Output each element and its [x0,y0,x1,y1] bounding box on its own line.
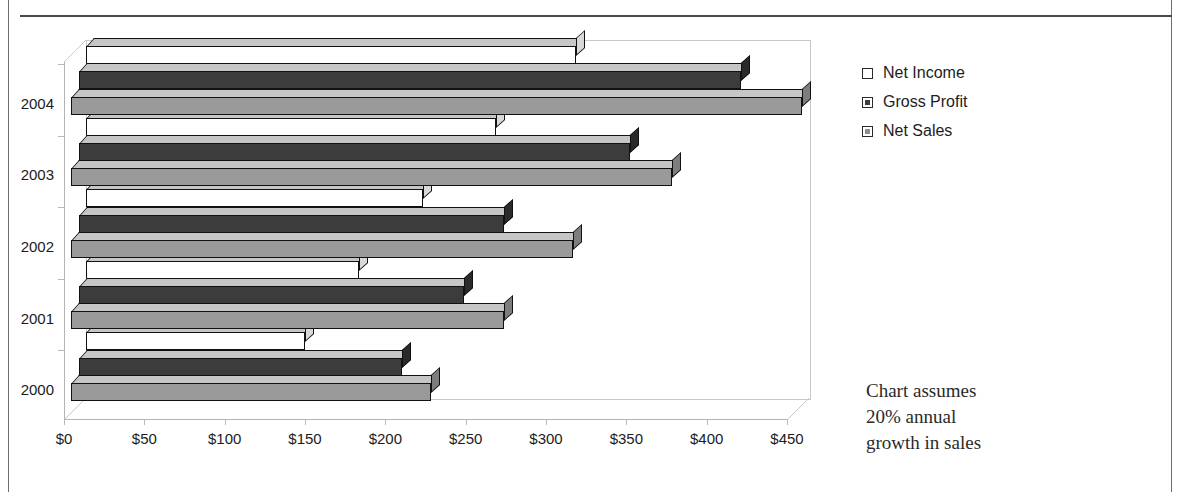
x-axis-line [64,419,787,420]
y-tick-label: 2003 [0,166,54,183]
bar-front-face [79,143,630,161]
legend-item-gross-profit[interactable]: Gross Profit [862,93,967,111]
x-tick-label: $100 [208,430,241,447]
bar-net-income-2004[interactable] [86,46,576,64]
x-tick [385,419,386,425]
bar-net-income-2001[interactable] [86,261,359,279]
legend-swatch-gross-profit [862,97,873,108]
x-tick-label: $0 [56,430,73,447]
x-tick-label: $400 [690,430,723,447]
legend-item-net-sales[interactable]: Net Sales [862,122,967,140]
y-tick [58,136,64,137]
legend-label-net-sales: Net Sales [883,122,952,140]
legend-swatch-net-income [862,68,873,79]
y-tick-label: 2001 [0,310,54,327]
bar-net-sales-2001[interactable] [71,311,503,329]
x-tick-label: $50 [132,430,157,447]
bar-net-income-2000[interactable] [86,332,305,350]
annotation-line-2: 20% annual [866,404,1106,430]
bar-front-face [79,215,505,233]
bar-front-face [71,383,431,401]
bar-chart: $0$50$100$150$200$250$300$350$400$450 20… [0,20,1180,480]
bar-net-income-2002[interactable] [86,189,423,207]
legend-item-net-income[interactable]: Net Income [862,64,967,82]
bar-front-face [86,261,359,279]
chart-page: $0$50$100$150$200$250$300$350$400$450 20… [0,0,1180,492]
bar-net-sales-2002[interactable] [71,240,572,258]
bar-front-face [86,118,496,136]
x-tick [626,419,627,425]
bar-front-face [86,46,576,64]
bar-front-face [86,189,423,207]
annotation-line-1: Chart assumes [866,378,1106,404]
bar-gross-profit-2001[interactable] [79,286,465,304]
x-tick [466,419,467,425]
bar-front-face [71,97,802,115]
x-tick-label: $250 [449,430,482,447]
bar-gross-profit-2002[interactable] [79,215,505,233]
bar-front-face [79,71,741,89]
legend-label-net-income: Net Income [883,64,965,82]
y-tick [58,207,64,208]
bar-front-face [79,286,465,304]
annotation-line-3: growth in sales [866,430,1106,456]
bar-gross-profit-2003[interactable] [79,143,630,161]
bar-front-face [71,240,572,258]
bar-gross-profit-2000[interactable] [79,358,402,376]
x-tick [546,419,547,425]
y-tick-label: 2002 [0,238,54,255]
x-tick-label: $450 [770,430,803,447]
y-tick [58,350,64,351]
x-tick-label: $200 [369,430,402,447]
bar-net-sales-2003[interactable] [71,168,672,186]
bar-front-face [79,358,402,376]
x-tick [64,419,65,425]
chart-legend: Net Income Gross Profit Net Sales [862,64,967,151]
plot-area: $0$50$100$150$200$250$300$350$400$450 20… [64,40,809,420]
bar-net-sales-2004[interactable] [71,97,802,115]
y-tick [58,279,64,280]
x-tick [144,419,145,425]
y-tick-label: 2000 [0,381,54,398]
page-rule-top [20,15,1172,17]
bar-net-sales-2000[interactable] [71,383,431,401]
x-tick [225,419,226,425]
bar-front-face [71,311,503,329]
x-tick [707,419,708,425]
y-tick [58,64,64,65]
bar-net-income-2003[interactable] [86,118,496,136]
x-tick [787,419,788,425]
legend-swatch-net-sales [862,126,873,137]
x-tick-label: $300 [529,430,562,447]
x-tick [305,419,306,425]
x-tick-label: $350 [610,430,643,447]
bar-gross-profit-2004[interactable] [79,71,741,89]
bar-front-face [71,168,672,186]
x-tick-label: $150 [288,430,321,447]
y-axis-line [64,62,65,420]
bar-front-face [86,332,305,350]
legend-label-gross-profit: Gross Profit [883,93,967,111]
y-tick-label: 2004 [0,95,54,112]
chart-annotation: Chart assumes 20% annual growth in sales [866,378,1106,457]
